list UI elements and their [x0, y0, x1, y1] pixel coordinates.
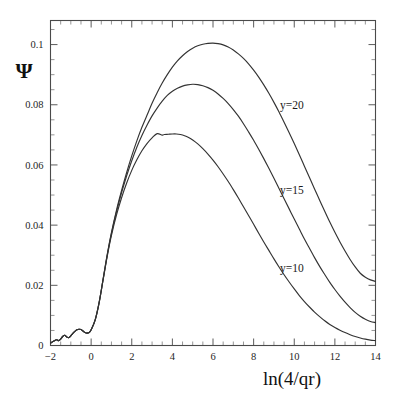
- x-tick-label: −2: [45, 351, 56, 362]
- y-tick-label: 0.1: [30, 39, 43, 50]
- annotation-y-15: y=15: [280, 184, 304, 197]
- y-tick-label: 0.02: [25, 280, 43, 291]
- chart-figure: −202468101214 00.020.040.060.080.1 y=20y…: [0, 0, 401, 402]
- y-tick-labels: 00.020.040.060.080.1: [25, 39, 44, 351]
- x-tick-labels: −202468101214: [45, 351, 382, 362]
- y-axis-title: Ψ: [15, 58, 33, 83]
- x-tick-label: 8: [251, 351, 256, 362]
- axis-ticks: [51, 21, 376, 346]
- x-tick-label: 4: [170, 351, 176, 362]
- plot-area: −202468101214 00.020.040.060.080.1 y=20y…: [0, 0, 401, 402]
- curve-y-20: [51, 43, 376, 343]
- plot-frame: [51, 21, 376, 346]
- x-tick-label: 2: [129, 351, 134, 362]
- series-annotations: y=20y=15y=10: [280, 99, 304, 275]
- curve-y-10: [51, 134, 376, 344]
- y-tick-label: 0.06: [25, 160, 43, 171]
- annotation-y-10: y=10: [280, 262, 304, 275]
- annotation-y-20: y=20: [280, 99, 304, 112]
- data-curves: [51, 43, 376, 343]
- y-tick-label: 0.04: [25, 220, 44, 231]
- y-tick-label: 0: [38, 340, 43, 351]
- x-tick-label: 14: [370, 351, 381, 362]
- x-tick-label: 6: [210, 351, 215, 362]
- x-tick-label: 10: [289, 351, 300, 362]
- x-axis-title: ln(4/qr): [263, 368, 321, 390]
- y-tick-label: 0.08: [25, 99, 43, 110]
- x-tick-label: 0: [89, 351, 94, 362]
- x-tick-label: 12: [330, 351, 341, 362]
